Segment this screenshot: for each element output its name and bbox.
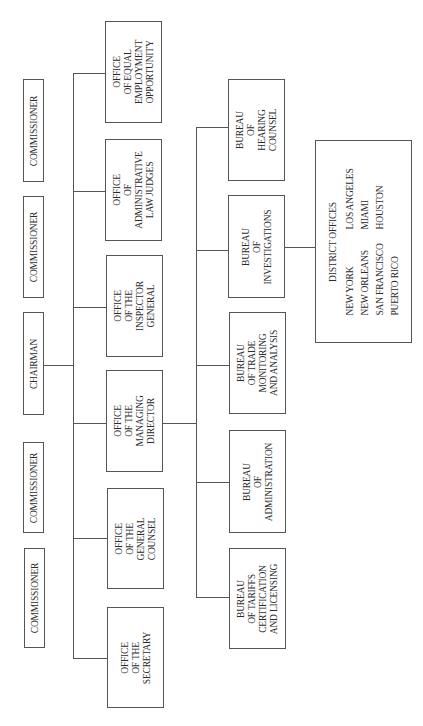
box-label: OFFICEOF THEGENERALCOUNSEL [114,517,158,560]
branch-administration [196,482,229,483]
office-gc-box: OFFICEOF THEGENERALCOUNSEL [107,488,164,589]
box-label: OFFICEOF EQUALEMPLOYMENTOPPORTUNITY [112,40,156,104]
district-office: SAN FRANCISCO [372,243,387,315]
box-label: COMMISSIONER [28,212,39,282]
box-label: OFFICEOF THESECRETARY [119,631,152,683]
investigations-connector [285,247,315,248]
district-office: NEW YORK [342,243,357,315]
branch-tariffs [196,597,229,598]
offices-bus-line [73,73,74,659]
branch-md [73,423,106,424]
box-label: BUREAUOF TRADEMONITORINGAND ANALYSIS [236,330,280,396]
box-label: COMMISSIONER [28,452,39,522]
branch-sec [73,658,107,659]
district-office: MIAMI [357,168,372,229]
box-label: COMMISSIONER [28,95,39,165]
bureau-administration-box: BUREAUOFADMINISTRATION [229,430,286,533]
box-label: OFFICEOF THEMANAGINGDIRECTOR [113,395,157,446]
branch-eeo [73,73,105,74]
branch-gc [73,538,107,539]
office-secretary-box: OFFICEOF THESECRETARY [107,607,164,708]
office-ig-box: OFFICEOF THEINSPECTORGENERAL [106,255,163,357]
box-label: BUREAUOFADMINISTRATION [241,442,274,520]
commissioner-box-1: COMMISSIONER [23,79,44,182]
office-md-box: OFFICEOF THEMANAGINGDIRECTOR [106,370,163,472]
box-label: OFFICEOF THEINSPECTORGENERAL [113,281,157,331]
md-connector [163,423,196,424]
branch-alj [73,191,105,192]
district-offices-list: NEW YORK LOS ANGELES NEW ORLEANS MIAMI S… [342,168,402,315]
bureau-hearing-counsel-box: BUREAUOFHEARINGCOUNSEL [228,79,285,181]
bureau-trade-monitoring-box: BUREAUOF TRADEMONITORINGAND ANALYSIS [229,312,286,414]
commissioner-box-2: COMMISSIONER [23,196,44,298]
branch-hearing [196,127,228,128]
box-label: OFFICEOFADMINISTRATIVELAW JUDGES [112,151,156,228]
commissioner-box-4: COMMISSIONER [24,548,45,648]
office-alj-box: OFFICEOFADMINISTRATIVELAW JUDGES [105,139,162,241]
bureaus-bus-line [196,127,197,598]
branch-ig [73,307,106,308]
box-label: BUREAUOF TARIFFSCERTIFICATIONAND LICENSI… [236,563,280,634]
branch-trade [196,365,229,366]
district-offices-content: DISTRICT OFFICES NEW YORK LOS ANGELES NE… [325,168,402,315]
district-office: PUERTO RICO [387,243,402,315]
bureau-tariffs-box: BUREAUOF TARIFFSCERTIFICATIONAND LICENSI… [229,548,286,649]
branch-investigations [196,250,228,251]
chairman-box: CHAIRMAN [23,312,44,415]
box-label: COMMISSIONER [29,563,40,633]
bureau-investigations-box: BUREAUOFINVESTIGATIONS [228,195,285,298]
box-label: BUREAUOFHEARINGCOUNSEL [235,109,279,151]
district-offices-heading: DISTRICT OFFICES [325,168,340,315]
district-offices-box: DISTRICT OFFICES NEW YORK LOS ANGELES NE… [315,140,412,343]
district-office: NEW ORLEANS [357,243,372,315]
office-eeo-box: OFFICEOF EQUALEMPLOYMENTOPPORTUNITY [105,21,162,123]
commissioner-box-3: COMMISSIONER [23,442,44,533]
district-office: HOUSTON [372,168,387,229]
box-label: CHAIRMAN [28,338,39,388]
district-office: LOS ANGELES [342,168,357,229]
chairman-connector [44,365,73,366]
box-label: BUREAUOFINVESTIGATIONS [240,209,273,284]
